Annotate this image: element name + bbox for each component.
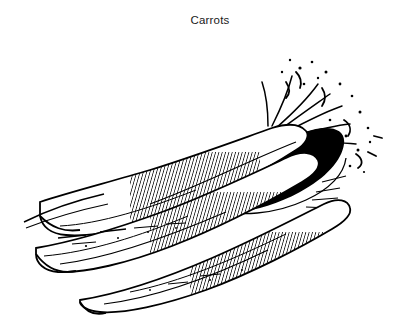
- carrots-line-art: [0, 32, 420, 320]
- figure-page: Carrots: [0, 0, 420, 320]
- page-title: Carrots: [0, 14, 420, 26]
- carrots-illustration: [0, 32, 420, 320]
